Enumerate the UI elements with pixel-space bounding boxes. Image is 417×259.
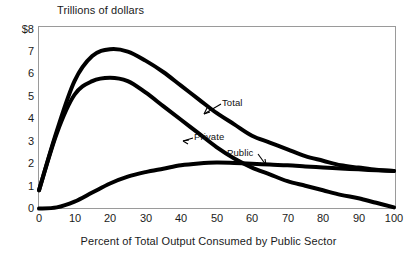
series-line-public: [39, 163, 394, 209]
leader-line-private: [183, 138, 193, 144]
series-line-private: [39, 78, 394, 208]
x-axis-caption: Percent of Total Output Consumed by Publ…: [0, 235, 417, 247]
plot-area: [0, 0, 417, 259]
series-label-total: Total: [222, 97, 243, 108]
series-label-private: Private: [194, 131, 224, 142]
series-label-public: Public: [227, 147, 253, 158]
chart-figure: Trillions of dollars $8 7 6 5 4 3 2 1 0 …: [0, 0, 417, 259]
